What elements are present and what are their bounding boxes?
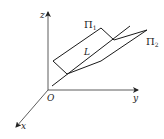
line-L-label: L	[83, 47, 90, 57]
plane-pi2-label: Π2	[146, 36, 159, 48]
y-axis-label: y	[132, 93, 139, 103]
plane-pi1-label: Π1	[84, 19, 97, 31]
plane-pi2-outline	[67, 30, 147, 74]
x-axis-label: x	[21, 121, 26, 131]
origin-label: O	[47, 93, 55, 103]
z-axis-label: z	[39, 10, 45, 20]
diagram-canvas: z y x O Π1 Π2 L	[0, 0, 164, 139]
